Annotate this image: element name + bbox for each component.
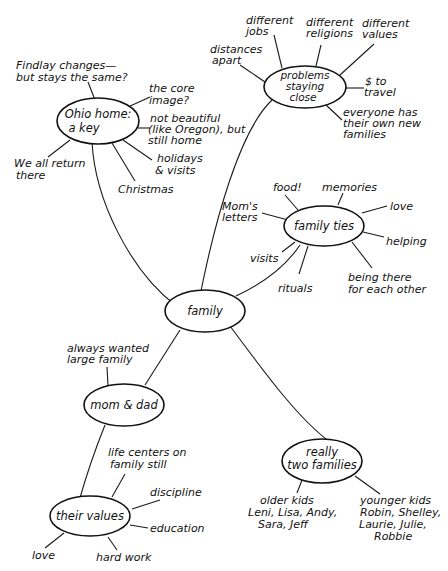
label-family-ties: family ties — [294, 219, 354, 233]
cluster-diagram: Ohio home:a key problemsstayingclose fam… — [0, 0, 448, 571]
edge-family-momdad — [145, 330, 180, 385]
leaf-memories: memories — [322, 181, 377, 194]
label-mom-dad: mom & dad — [90, 398, 158, 412]
leaf-moms-letters: Mom'sletters — [222, 200, 258, 224]
leaf-visits: visits — [250, 252, 279, 265]
label-family: family — [187, 304, 223, 318]
leaf-education: education — [150, 522, 205, 535]
leaf-older-kids: older kidsLeni, Lisa, Andy,Sara, Jeff — [248, 494, 337, 531]
leaf-core-image: the coreimage? — [149, 82, 195, 107]
leaf-discipline: discipline — [150, 486, 202, 499]
leaf-values: differentvalues — [362, 17, 410, 41]
leaf-life-centers: life centers onfamily still — [108, 446, 187, 471]
leaf-being-there: being therefor each other — [348, 271, 427, 296]
leaf-new-families: everyone hastheir own newfamilies — [343, 106, 421, 141]
leaf-findlay: Findlay changes—but stays the same? — [16, 59, 128, 84]
leaf-food: food! — [273, 181, 302, 194]
leaf-holidays: holidays& visits — [155, 152, 203, 177]
edge-family-two — [230, 326, 330, 442]
edge-momdad-values — [80, 425, 105, 498]
leaf-christmas: Christmas — [118, 183, 174, 196]
leaf-love-values: love — [32, 549, 55, 562]
leaf-return: We all returnthere — [14, 157, 86, 182]
leaf-love: love — [390, 200, 413, 213]
leaf-religions: differentreligions — [306, 16, 354, 40]
leaf-rituals: rituals — [278, 282, 313, 295]
leaf-large-family: always wantedlarge family — [67, 342, 150, 366]
leaf-hard-work: hard work — [96, 551, 152, 564]
leaf-travel: $ totravel — [364, 75, 396, 99]
leaf-helping: helping — [386, 235, 427, 248]
leaf-younger-kids: younger kidsRobin, Shelley,Laurie, Julie… — [359, 494, 441, 543]
leaf-not-beautiful: not beautiful(like Oregon), butstill hom… — [148, 112, 246, 147]
leaf-distances: distancesapart — [210, 43, 263, 67]
leaf-jobs: differentjobs — [244, 14, 294, 38]
label-their-values: their values — [56, 509, 124, 523]
